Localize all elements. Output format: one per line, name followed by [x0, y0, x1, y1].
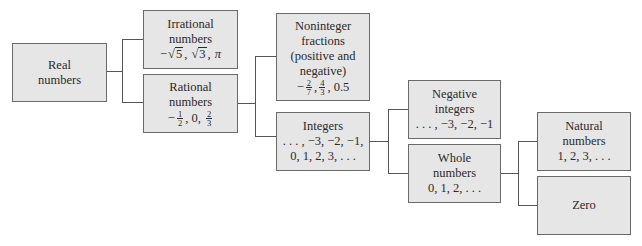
connector-rational-stem: [237, 103, 256, 104]
node-examples: − 12 , 0, 23: [168, 110, 213, 127]
connector-integers-stem: [369, 141, 389, 142]
node-irrational-numbers: Irrational numbers − √5 , √3 , π: [143, 10, 238, 69]
node-real-numbers: Real numbers: [12, 43, 107, 102]
node-label: numbers: [562, 134, 605, 149]
connector-to-rational: [122, 102, 143, 103]
connector-real-trunk: [122, 39, 123, 103]
node-examples: 1, 2, 3, . . .: [557, 149, 610, 164]
connector-to-integers: [255, 136, 276, 137]
node-label: Zero: [572, 198, 596, 213]
node-label: Rational: [169, 80, 211, 95]
sqrt-symbol: √3: [191, 47, 206, 62]
connector-whole-trunk: [518, 141, 519, 206]
node-label: numbers: [169, 95, 212, 110]
connector-to-whole: [388, 173, 408, 174]
connector-to-noninteger: [255, 56, 276, 57]
connector-to-zero: [518, 205, 537, 206]
node-rational-numbers: Rational numbers − 12 , 0, 23: [143, 74, 238, 133]
node-label: Natural: [565, 119, 602, 134]
node-whole-numbers: Whole numbers 0, 1, 2, . . .: [408, 144, 501, 203]
node-label: fractions: [301, 34, 345, 49]
node-label: Real: [48, 58, 71, 73]
node-label: negative): [300, 64, 347, 79]
node-label: Negative: [432, 87, 477, 102]
fraction: 43: [319, 79, 325, 96]
node-natural-numbers: Natural numbers 1, 2, 3, . . .: [537, 112, 631, 171]
node-noninteger-fractions: Noninteger fractions (positive and negat…: [276, 13, 370, 101]
node-negative-integers: Negative integers . . . , −3, −2, −1: [408, 80, 501, 139]
fraction: 27: [306, 79, 312, 96]
node-label: Irrational: [167, 17, 214, 32]
connector-to-natural: [518, 141, 537, 142]
node-label: integers: [435, 102, 475, 117]
node-label: Noninteger: [295, 19, 351, 34]
connector-integers-trunk: [388, 109, 389, 174]
node-label: (positive and: [291, 49, 356, 64]
node-examples: 0, 1, 2, . . .: [428, 181, 481, 196]
fraction: 23: [206, 110, 212, 127]
connector-rational-trunk: [255, 56, 256, 137]
node-examples: . . . , −3, −2, −1,: [283, 134, 364, 149]
node-zero: Zero: [537, 176, 631, 235]
node-integers: Integers . . . , −3, −2, −1, 0, 1, 2, 3,…: [276, 112, 370, 171]
node-label: numbers: [433, 166, 476, 181]
node-label: numbers: [169, 32, 212, 47]
connector-to-irrational: [122, 39, 143, 40]
connector-to-negative-integers: [388, 109, 408, 110]
connector-real-stem: [106, 71, 123, 72]
node-examples: . . . , −3, −2, −1: [416, 117, 493, 132]
node-label: numbers: [38, 73, 81, 88]
node-label: Integers: [303, 119, 343, 134]
fraction: 12: [177, 110, 183, 127]
node-examples: − 27 , 43 , 0.5: [297, 79, 350, 96]
sqrt-symbol: √5: [168, 47, 183, 62]
node-examples: 0, 1, 2, 3, . . .: [290, 149, 356, 164]
node-examples: − √5 , √3 , π: [160, 47, 221, 62]
node-label: Whole: [438, 151, 471, 166]
connector-whole-stem: [500, 173, 519, 174]
